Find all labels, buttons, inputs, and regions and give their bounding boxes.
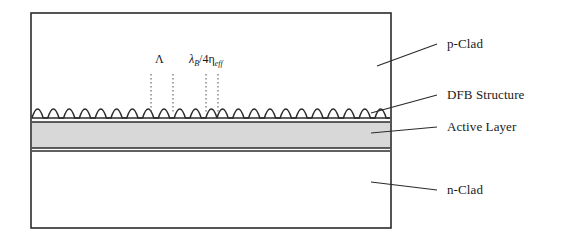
active-layer-band bbox=[32, 122, 390, 148]
figure-root: Λ λB/4ηeff p-Clad DFB Structure Active L… bbox=[0, 0, 576, 245]
label-active-layer: Active Layer bbox=[447, 119, 516, 135]
label-dfb-structure: DFB Structure bbox=[447, 87, 525, 103]
label-p-clad: p-Clad bbox=[447, 36, 483, 52]
label-n-clad: n-Clad bbox=[447, 182, 483, 198]
eta-subscript: eff bbox=[215, 59, 223, 68]
grating-period-label: Λ bbox=[155, 52, 164, 67]
quarter-wave-shift-label: λB/4ηeff bbox=[189, 52, 223, 68]
